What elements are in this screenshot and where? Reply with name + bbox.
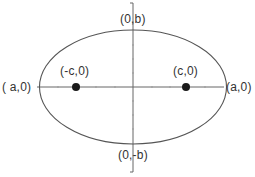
right-focus-point	[182, 83, 190, 91]
bottom-vertex-label: (0,-b)	[118, 149, 148, 161]
left-vertex-label: ( a,0)	[2, 81, 31, 93]
right-vertex-label: (a,0)	[226, 81, 252, 93]
right-focus-label: (c,0)	[173, 65, 198, 77]
left-focus-point	[72, 83, 80, 91]
top-vertex-label: (0,b)	[120, 13, 146, 25]
left-focus-label: (-c,0)	[60, 65, 89, 77]
